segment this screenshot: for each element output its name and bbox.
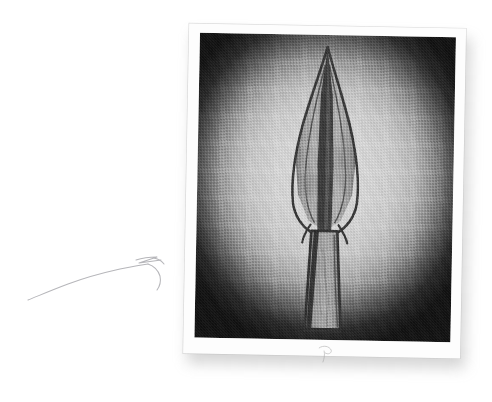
pencil-mark-stroke-1 bbox=[319, 346, 331, 354]
film-grain-layer bbox=[194, 33, 456, 343]
page-canvas bbox=[0, 0, 492, 402]
arrow-head-upper-stroke bbox=[136, 257, 161, 263]
pencil-mark-on-border bbox=[311, 342, 341, 365]
arrow-head-lower-stroke bbox=[148, 264, 160, 290]
photograph-paper-border bbox=[183, 23, 466, 358]
hand-drawn-arrow-annotation bbox=[18, 238, 188, 318]
pencil-mark-stroke-2 bbox=[323, 351, 325, 362]
photograph-image-frame bbox=[194, 33, 456, 343]
arrow-tail-path bbox=[28, 264, 148, 300]
photograph-container bbox=[183, 23, 473, 368]
